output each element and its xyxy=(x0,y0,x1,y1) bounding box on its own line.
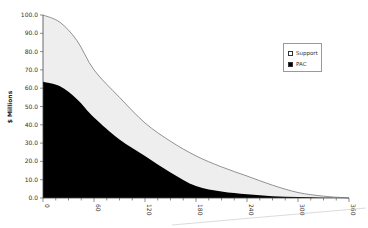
y-axis-title: $ Millions xyxy=(6,90,13,123)
y-tick-label: 10.0 xyxy=(25,176,39,183)
y-tick-label: 20.0 xyxy=(25,157,39,164)
y-tick-label: 90.0 xyxy=(25,29,39,36)
y-tick-label: 100.0 xyxy=(21,11,38,18)
support-swatch-icon xyxy=(288,51,293,56)
y-tick-label: 70.0 xyxy=(25,66,39,73)
x-tick-label: 360 xyxy=(350,204,357,216)
y-tick-label: 30.0 xyxy=(25,139,39,146)
y-tick-label: 60.0 xyxy=(25,84,39,91)
area-chart: 0.010.020.030.040.050.060.070.080.090.01… xyxy=(0,0,368,228)
y-tick-label: 40.0 xyxy=(25,121,39,128)
x-tick-label: 120 xyxy=(146,204,153,216)
legend-item-pac: PAC xyxy=(288,60,306,68)
pac-swatch-icon xyxy=(288,62,293,67)
y-tick-label: 0.0 xyxy=(28,194,38,201)
legend-label: Support xyxy=(296,50,318,56)
legend-item-support: Support xyxy=(288,49,318,57)
y-tick-label: 50.0 xyxy=(25,103,39,110)
x-tick-label: 240 xyxy=(248,204,255,216)
legend: Support PAC xyxy=(283,43,322,72)
y-tick-label: 80.0 xyxy=(25,48,39,55)
x-tick-label: 0 xyxy=(44,204,51,208)
x-tick-label: 60 xyxy=(95,204,102,212)
x-tick-label: 180 xyxy=(197,204,204,216)
legend-label: PAC xyxy=(296,61,306,67)
